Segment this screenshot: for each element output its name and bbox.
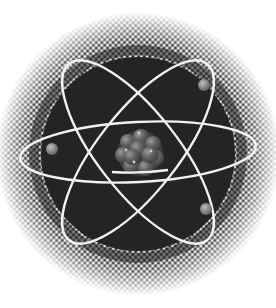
atom-illustration	[0, 0, 276, 308]
electron-bottom-right	[200, 203, 212, 215]
electron-top-right	[198, 79, 210, 91]
electron-left	[46, 143, 58, 155]
